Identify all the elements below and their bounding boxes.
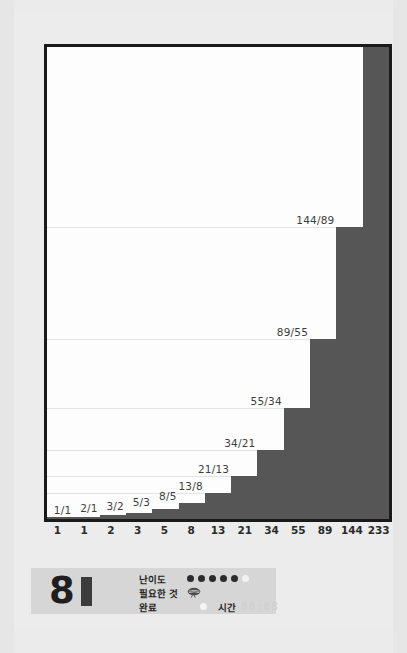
x-axis-tick: 34 [258, 524, 285, 536]
time-value-display: 88:88 [241, 600, 279, 613]
bar [152, 509, 178, 519]
x-axis-tick: 21 [231, 524, 258, 536]
bar [284, 408, 310, 519]
difficulty-rating-dots [187, 575, 249, 582]
x-axis-tick: 233 [365, 524, 392, 536]
difficulty-dot[interactable] [220, 575, 227, 582]
difficulty-dot[interactable] [231, 575, 238, 582]
x-axis-tick: 144 [338, 524, 365, 536]
x-axis-tick: 55 [285, 524, 312, 536]
bar-label: 8/5 [159, 490, 177, 502]
bar [257, 450, 283, 519]
score-block: 8 [49, 571, 92, 611]
needed-label: 필요한 것 [139, 586, 187, 600]
bar-label: 5/3 [133, 496, 151, 508]
bar [310, 339, 336, 519]
done-label: 완료 [139, 600, 186, 614]
difficulty-dot[interactable] [198, 575, 205, 582]
done-status-dot[interactable] [200, 603, 207, 610]
bar-label: 13/8 [178, 480, 202, 492]
bar [100, 515, 126, 519]
bar-label: 3/2 [106, 500, 124, 512]
bar [231, 476, 257, 519]
bar-label: 89/55 [277, 326, 308, 338]
bar-label: 1/1 [54, 504, 72, 516]
stats-block: 난이도 필요한 것 완료 시간 [139, 572, 279, 614]
plot-area: 1/12/13/25/38/513/821/1334/2155/3489/551… [47, 47, 389, 519]
score-bar-marker [81, 577, 92, 606]
bar [47, 517, 73, 519]
x-axis-tick: 13 [205, 524, 232, 536]
difficulty-dot[interactable] [242, 575, 249, 582]
x-axis-tick: 1 [44, 524, 71, 536]
fibonacci-ratio-bar-chart: 1/12/13/25/38/513/821/1334/2155/3489/551… [44, 44, 392, 522]
x-axis-tick: 1 [71, 524, 98, 536]
bar [179, 503, 205, 519]
difficulty-dot[interactable] [209, 575, 216, 582]
bar [126, 513, 152, 519]
score-number: 8 [49, 571, 74, 611]
bar [363, 47, 389, 519]
bar [205, 493, 231, 519]
bar-label: 21/13 [198, 463, 229, 475]
bar-label: 34/21 [224, 437, 255, 449]
difficulty-label: 난이도 [139, 572, 187, 586]
bar-label: 233/144 [316, 44, 361, 46]
x-axis-tick: 2 [98, 524, 125, 536]
page-sheet: 1/12/13/25/38/513/821/1334/2155/3489/551… [14, 0, 393, 653]
footer-info-panel: 8 난이도 필요한 것 [31, 568, 276, 614]
needed-row: 필요한 것 [139, 586, 279, 599]
x-axis-tick: 3 [124, 524, 151, 536]
bar-label: 2/1 [80, 502, 98, 514]
bar [73, 517, 99, 519]
bar-label: 144/89 [296, 214, 334, 226]
brain-icon [187, 587, 202, 598]
time-label: 시간 [218, 600, 236, 614]
bar [336, 227, 362, 519]
bar-label: 55/34 [251, 395, 282, 407]
x-axis-tick-labels: 1123581321345589144233 [44, 524, 392, 544]
x-axis-tick: 5 [151, 524, 178, 536]
difficulty-dot[interactable] [187, 575, 194, 582]
x-axis-tick: 8 [178, 524, 205, 536]
difficulty-row: 난이도 [139, 572, 279, 585]
done-row: 완료 시간 88:88 [139, 600, 279, 613]
x-axis-tick: 89 [312, 524, 339, 536]
